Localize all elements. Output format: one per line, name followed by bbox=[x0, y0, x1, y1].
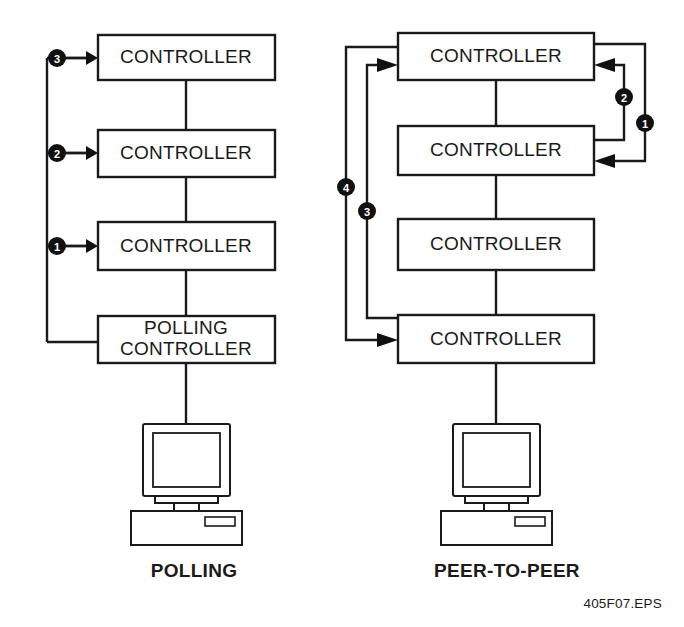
floppy-drive-slot bbox=[205, 517, 235, 526]
p2p-bullet-2-number: 2 bbox=[621, 92, 627, 104]
polling-diagram: CONTROLLER CONTROLLER CONTROLLER POLLING… bbox=[47, 35, 275, 581]
p2p-bullet-4: 4 bbox=[337, 178, 355, 196]
monitor-base-plate bbox=[155, 496, 218, 503]
p2p-node-2-label: CONTROLLER bbox=[430, 139, 562, 160]
computer-case bbox=[131, 511, 242, 545]
polling-bullet-2-number: 2 bbox=[54, 148, 60, 160]
computer-case bbox=[441, 511, 552, 545]
p2p-bullet-3: 3 bbox=[358, 202, 376, 220]
p2p-loop-2-arrow-head bbox=[594, 58, 615, 72]
polling-bullet-1-number: 1 bbox=[54, 241, 60, 253]
p2p-node-1-label: CONTROLLER bbox=[430, 45, 562, 66]
polling-arrow-head-3 bbox=[86, 51, 98, 65]
p2p-bullet-3-number: 3 bbox=[364, 206, 370, 218]
p2p-bullet-1-number: 1 bbox=[642, 118, 648, 130]
peer-to-peer-diagram: CONTROLLER CONTROLLER CONTROLLER CONTROL… bbox=[337, 33, 654, 581]
polling-arrow-head-1 bbox=[86, 239, 98, 253]
p2p-bullet-4-number: 4 bbox=[343, 182, 350, 194]
p2p-loop-1-arrow-head bbox=[594, 154, 615, 168]
p2p-bullet-1: 1 bbox=[636, 114, 654, 132]
p2p-node-4-label: CONTROLLER bbox=[430, 328, 562, 349]
network-topology-figure: CONTROLLER CONTROLLER CONTROLLER POLLING… bbox=[0, 0, 684, 627]
p2p-loop-3-path bbox=[367, 65, 398, 318]
monitor-screen bbox=[463, 433, 530, 487]
floppy-drive-slot bbox=[515, 517, 545, 526]
polling-node-1-label: CONTROLLER bbox=[120, 46, 252, 67]
polling-node-4-label-line1: POLLING bbox=[144, 317, 228, 338]
peer-to-peer-caption: PEER-TO-PEER bbox=[434, 560, 580, 581]
polling-bullet-3-number: 3 bbox=[54, 53, 60, 65]
polling-bullet-1: 1 bbox=[48, 237, 66, 255]
monitor-neck bbox=[484, 503, 509, 511]
p2p-node-3-label: CONTROLLER bbox=[430, 233, 562, 254]
p2p-loop-4-path bbox=[346, 47, 398, 340]
polling-bullet-2: 2 bbox=[48, 144, 66, 162]
figure-file-label: 405F07.EPS bbox=[583, 596, 662, 611]
p2p-bullet-2: 2 bbox=[615, 88, 633, 106]
p2p-loop-4-arrow-head bbox=[377, 333, 398, 347]
polling-node-4-label-line2: CONTROLLER bbox=[120, 338, 252, 359]
p2p-workstation bbox=[441, 424, 552, 545]
monitor-neck bbox=[174, 503, 199, 511]
p2p-loop-3-arrow-head bbox=[377, 58, 398, 72]
monitor-screen bbox=[153, 433, 220, 487]
polling-arrow-head-2 bbox=[86, 146, 98, 160]
polling-workstation bbox=[131, 424, 242, 545]
polling-bullet-3: 3 bbox=[48, 49, 66, 67]
polling-caption: POLLING bbox=[151, 560, 238, 581]
polling-node-2-label: CONTROLLER bbox=[120, 142, 252, 163]
monitor-base-plate bbox=[465, 496, 528, 503]
polling-node-3-label: CONTROLLER bbox=[120, 235, 252, 256]
